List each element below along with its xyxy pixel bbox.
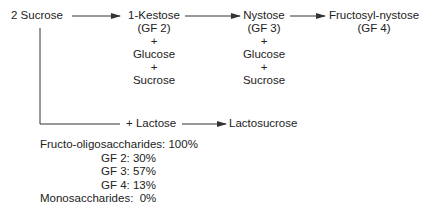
- branch-lactosucrose-label: Lactosucrose: [229, 117, 297, 129]
- summary-gf2: GF 2: 30%: [40, 152, 198, 166]
- node-nystose: Nystose (GF 3) + Glucose + Sucrose: [236, 9, 292, 87]
- summary-gf3: GF 3: 57%: [40, 165, 198, 179]
- nystose-code: (GF 3): [236, 22, 292, 35]
- summary-monosaccharides: Monosaccharides: 0%: [40, 192, 198, 206]
- nystose-name: Nystose: [236, 9, 292, 22]
- start-sucrose-label: 2 Sucrose: [11, 9, 63, 21]
- kestose-name: 1-Kestose: [118, 9, 190, 22]
- summary-gf4: GF 4: 13%: [40, 179, 198, 193]
- kestose-plus-2: +: [118, 61, 190, 74]
- kestose-plus-1: +: [118, 35, 190, 48]
- kestose-byproduct-glucose: Glucose: [118, 48, 190, 61]
- nystose-byproduct-glucose: Glucose: [236, 48, 292, 61]
- branch-line: [40, 28, 120, 124]
- composition-summary: Fructo-oligosaccharides: 100% GF 2: 30% …: [40, 138, 198, 206]
- branch-lactose-label: + Lactose: [126, 117, 176, 129]
- kestose-code: (GF 2): [118, 22, 190, 35]
- nystose-byproduct-sucrose: Sucrose: [236, 74, 292, 87]
- summary-total-fos: Fructo-oligosaccharides: 100%: [40, 138, 198, 152]
- nystose-plus-1: +: [236, 35, 292, 48]
- node-1-kestose: 1-Kestose (GF 2) + Glucose + Sucrose: [118, 9, 190, 87]
- nystose-plus-2: +: [236, 61, 292, 74]
- fructosylnystose-code: (GF 4): [324, 22, 424, 35]
- fructosylnystose-name: Fructosyl-nystose: [324, 9, 424, 22]
- kestose-byproduct-sucrose: Sucrose: [118, 74, 190, 87]
- node-fructosyl-nystose: Fructosyl-nystose (GF 4): [324, 9, 424, 35]
